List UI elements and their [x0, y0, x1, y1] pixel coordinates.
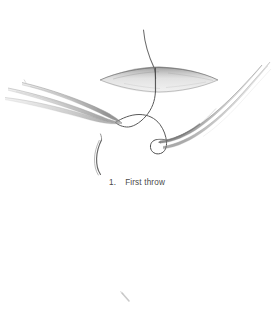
- canvas-background: [0, 0, 274, 310]
- figure-page: 1.First throw: [0, 0, 274, 310]
- caption-text: First throw: [125, 178, 165, 187]
- surgical-illustration: [0, 0, 274, 310]
- figure-caption: 1.First throw: [0, 178, 274, 187]
- caption-number: 1.: [109, 178, 116, 187]
